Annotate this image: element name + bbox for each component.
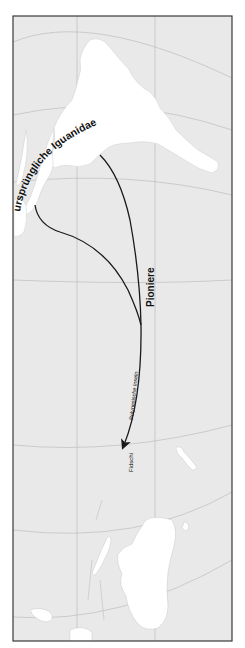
label-fiji: Fidschi [128,453,134,472]
migration-map: ursprüngliche Iguanidae Pioniere Polynes… [0,0,245,648]
label-pioneers: Pioniere [145,267,156,307]
